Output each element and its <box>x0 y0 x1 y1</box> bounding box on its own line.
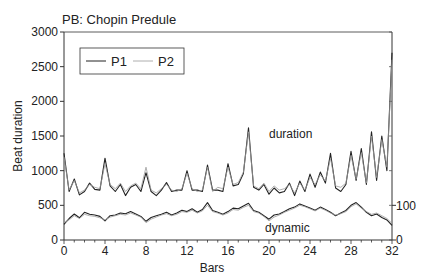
duration-p2-line <box>64 60 392 193</box>
legend: P1 P2 <box>80 48 184 74</box>
y-tick-label: 2500 <box>31 60 58 74</box>
legend-p1-label: P1 <box>111 54 127 69</box>
chart: PB: Chopin Predule 050010001500200025003… <box>0 0 425 279</box>
x-tick-label: 28 <box>344 244 358 258</box>
x-tick-label: 8 <box>143 244 150 258</box>
y-axis-label: Beat duration <box>11 100 25 171</box>
y-tick-label: 3000 <box>31 25 58 39</box>
x-tick-label: 24 <box>303 244 317 258</box>
x-tick-label: 4 <box>102 244 109 258</box>
y-tick-label: 0 <box>51 233 58 247</box>
dynamic-p2-line <box>64 204 392 224</box>
x-tick-label: 12 <box>180 244 194 258</box>
duration-annotation: duration <box>269 127 312 141</box>
x-tick-label: 20 <box>262 244 276 258</box>
y-tick-label: 500 <box>38 198 58 212</box>
dynamic-p1-line <box>64 203 392 226</box>
legend-p2-label: P2 <box>158 54 174 69</box>
series-lines <box>64 53 392 226</box>
right-axis-tick-100: 100 <box>396 199 416 213</box>
right-axis-tick-0: 0 <box>396 233 403 247</box>
y-tick-label: 1000 <box>31 164 58 178</box>
x-axis-label: Bars <box>200 261 225 275</box>
x-tick-label: 0 <box>61 244 68 258</box>
dynamic-annotation: dynamic <box>265 221 310 235</box>
y-tick-label: 1500 <box>31 129 58 143</box>
chart-title: PB: Chopin Predule <box>62 12 176 27</box>
x-tick-label: 16 <box>221 244 235 258</box>
y-tick-label: 2000 <box>31 94 58 108</box>
